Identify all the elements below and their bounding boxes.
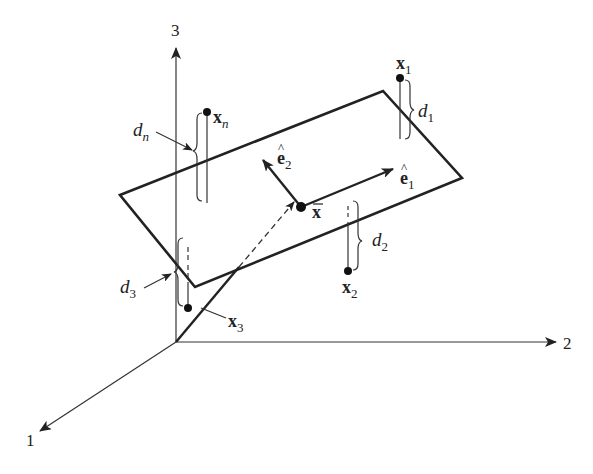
label-x1: x1 <box>396 53 412 77</box>
axis-2-label: 2 <box>563 334 572 353</box>
coordinate-axes: 3 2 1 <box>26 21 572 450</box>
axis-3-label: 3 <box>171 21 180 40</box>
point-x1 <box>396 74 404 82</box>
distance-labels: d1 dn d2 d3 <box>120 100 434 301</box>
axis-1 <box>40 342 176 431</box>
bracket-dn <box>193 113 202 201</box>
bracket-d2 <box>353 201 362 270</box>
axis-1-label: 1 <box>26 431 35 450</box>
label-d3: d3 <box>120 276 136 301</box>
point-x3 <box>184 304 192 312</box>
label-d1: d1 <box>418 100 434 125</box>
leader-arrows <box>144 132 226 318</box>
label-dn: dn <box>133 119 149 144</box>
point-x2 <box>344 267 352 275</box>
svg-text:x: x <box>312 202 321 222</box>
label-e2: ^ e2 <box>277 140 292 172</box>
vector-labels: ^ e1 ^ e2 <box>277 140 415 192</box>
point-mean <box>296 202 306 212</box>
point-labels: x1 xn x2 x3 x <box>213 53 412 335</box>
label-x3: x3 <box>228 311 244 335</box>
svg-text:e1: e1 <box>400 168 415 192</box>
point-xn <box>203 108 211 116</box>
pca-plane-diagram: 3 2 1 <box>0 0 593 474</box>
label-e1: ^ e1 <box>400 160 415 192</box>
bracket-d1 <box>405 80 414 139</box>
label-xn: xn <box>213 107 229 131</box>
svg-text:e2: e2 <box>277 148 292 172</box>
label-x2: x2 <box>342 277 358 301</box>
label-mean: x <box>312 202 323 222</box>
label-d2: d2 <box>372 229 388 254</box>
